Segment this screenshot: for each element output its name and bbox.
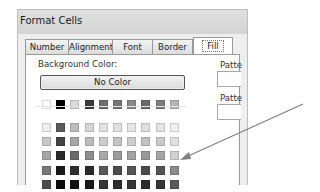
annotation-arrow-icon	[0, 0, 320, 192]
